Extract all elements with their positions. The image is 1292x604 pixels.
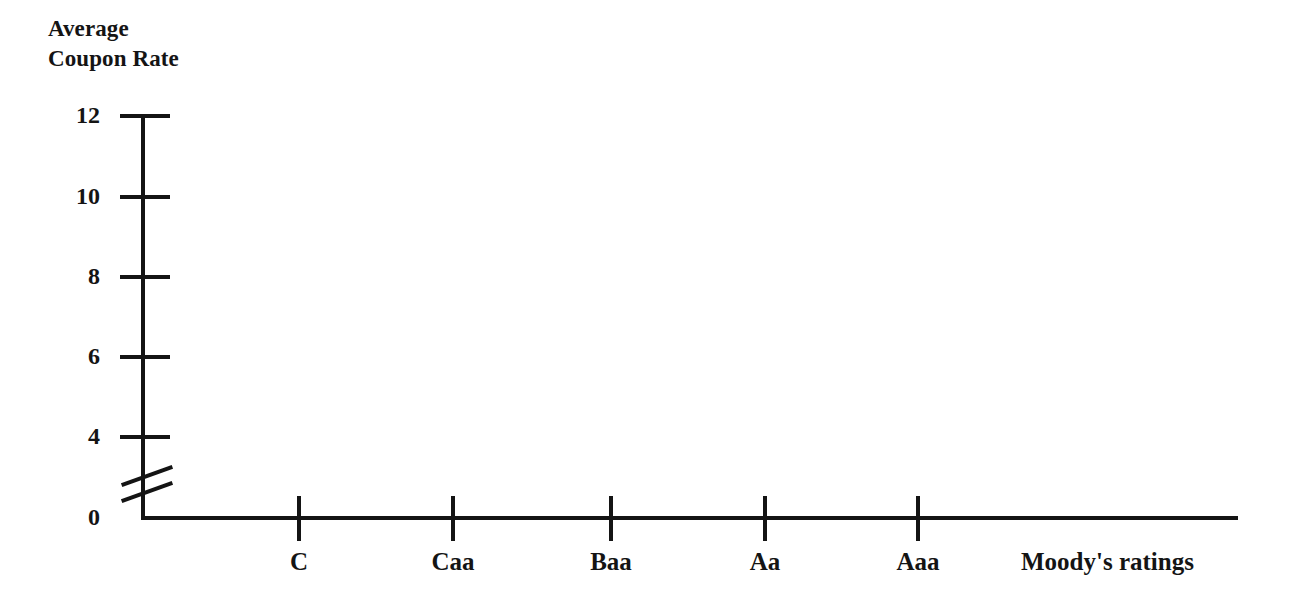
x-axis-tick-label: C [290, 548, 308, 576]
x-axis-tick [763, 496, 767, 541]
y-axis-tick [120, 435, 170, 439]
y-axis-tick-label: 6 [20, 344, 100, 368]
x-axis-tick-label: Caa [431, 548, 474, 576]
y-axis-break-icon [118, 460, 178, 512]
chart-figure: Average Coupon Rate 12108640 CCaaBaaAaAa… [0, 0, 1292, 604]
y-axis-tick-label: 10 [20, 184, 100, 208]
y-axis-tick-label: 4 [20, 424, 100, 448]
x-axis-tick [297, 496, 301, 541]
y-axis-tick-label: 0 [20, 505, 100, 529]
x-axis-line [141, 516, 1238, 520]
y-axis-tick [120, 355, 170, 359]
x-axis-tick-label: Aaa [896, 548, 939, 576]
x-axis-tick [609, 496, 613, 541]
y-axis-tick [120, 114, 170, 118]
y-axis-tick [120, 195, 170, 199]
y-axis-tick-label: 8 [20, 264, 100, 288]
y-axis-title: Average Coupon Rate [48, 14, 179, 74]
y-axis-tick-label: 12 [20, 103, 100, 127]
x-axis-tick [916, 496, 920, 541]
y-axis-tick [120, 275, 170, 279]
x-axis-tick-label: Baa [590, 548, 632, 576]
x-axis-tick-label: Aa [750, 548, 781, 576]
x-axis-tick [451, 496, 455, 541]
x-axis-title: Moody's ratings [1021, 548, 1194, 576]
